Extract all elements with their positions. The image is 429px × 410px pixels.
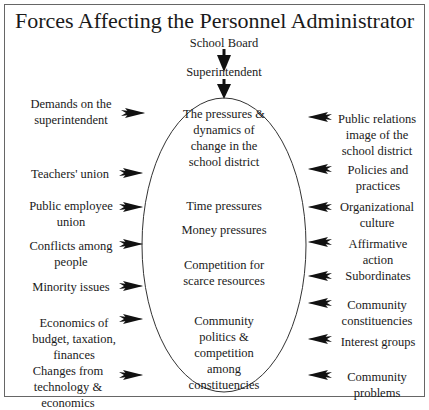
left-item: Public employee union (26, 198, 116, 230)
left-item: Minority issues (26, 279, 116, 295)
arrow-left-icon (308, 370, 332, 380)
left-item: Demands on the superintendent (26, 96, 116, 128)
right-item: Organizational culture (330, 199, 424, 231)
right-item: Policies and practices (336, 162, 420, 194)
arrow-right-icon (119, 239, 143, 249)
right-item: Interest groups (336, 334, 420, 350)
right-item: Affirmative action (336, 236, 420, 268)
center-item: Competition for scarce resources (170, 257, 278, 289)
right-item: Community problems (330, 369, 424, 401)
arrow-right-icon (119, 168, 143, 178)
arrow-right-icon (119, 281, 143, 291)
arrow-left-icon (308, 334, 332, 344)
center-item: Community politics & competition among c… (182, 313, 266, 393)
arrow-left-icon (308, 271, 332, 281)
left-item: Conflicts among people (26, 238, 116, 270)
center-item: Time pressures (164, 198, 284, 214)
arrow-right-icon (121, 108, 145, 118)
right-item: Community constituencies (330, 297, 424, 329)
arrow-left-icon (308, 237, 332, 247)
right-item: Subordinates (333, 268, 423, 284)
arrow-left-icon (308, 164, 332, 174)
left-item: Economics of budget, taxation, finances (22, 315, 126, 363)
arrow-left-icon (308, 298, 332, 308)
arrow-right-icon (119, 202, 143, 212)
center-item: The pressures & dynamics of change in th… (183, 106, 265, 170)
right-item: Public relations image of the school dis… (330, 111, 424, 159)
center-item: Money pressures (164, 222, 284, 238)
arrow-left-icon (308, 202, 332, 212)
left-item: Changes from technology & economics (8, 363, 128, 410)
arrow-left-icon (308, 112, 332, 122)
left-item: Teachers' union (20, 166, 120, 182)
superintendent-label: Superintendent (174, 64, 274, 80)
arrow-down-superintendent (217, 79, 231, 99)
school-board-label: School Board (174, 35, 274, 51)
